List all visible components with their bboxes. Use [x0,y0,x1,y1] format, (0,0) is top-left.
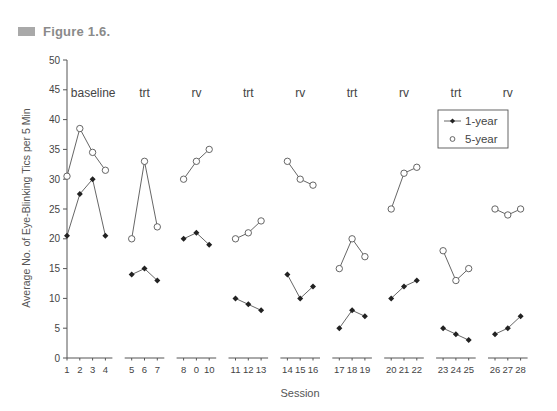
x-tick-label: 17 [334,364,345,375]
y-tick-label: 5 [54,323,60,334]
y-tick-label: 20 [49,233,61,244]
data-point-5-year [517,206,523,212]
data-point-5-year [77,125,83,131]
data-point-5-year [297,176,303,182]
data-point-1-year [245,301,251,307]
data-point-5-year [440,248,446,254]
x-tick-label: 28 [515,364,526,375]
data-point-5-year [414,164,420,170]
series-line-segment [443,251,469,281]
series-line-segment [67,129,105,177]
session-line-chart: 05101520253035404550 1234567801011121314… [0,0,557,411]
x-axis-title: Session [280,387,319,399]
x-tick-label: 1 [64,364,69,375]
data-point-5-year [401,170,407,176]
y-tick-label: 35 [49,144,61,155]
y-axis-title: Average No. of Eye-Blinking Tics per 5 M… [20,108,32,308]
x-tick-label: 26 [490,364,501,375]
series-1-year [64,176,524,343]
data-point-5-year [180,176,186,182]
phase-label-baseline: baseline [71,86,116,100]
data-point-5-year [388,206,394,212]
data-point-5-year [492,206,498,212]
x-tick-label: 3 [90,364,95,375]
x-tick-label: 2 [77,364,82,375]
y-tick-label: 40 [49,114,61,125]
data-point-1-year [233,295,239,301]
x-tick-label: 14 [282,364,293,375]
phase-label-rv: rv [295,86,305,100]
data-point-5-year [154,224,160,230]
data-point-1-year [336,325,342,331]
y-tick-label: 45 [49,84,61,95]
data-point-5-year [310,182,316,188]
data-point-5-year [466,265,472,271]
x-tick-label: 18 [347,364,358,375]
data-point-5-year [129,236,135,242]
data-point-5-year [232,236,238,242]
series-line-segment [67,179,105,236]
data-point-5-year [258,218,264,224]
y-tick-label: 25 [49,204,61,215]
x-axis: 1234567801011121314151617181920212223242… [64,358,527,375]
data-point-5-year [284,158,290,164]
y-axis: 05101520253035404550 [49,55,67,364]
phase-label-rv: rv [191,86,201,100]
data-point-1-year [129,272,135,278]
data-point-1-year [349,307,355,313]
data-point-1-year [64,233,70,239]
data-point-5-year [102,167,108,173]
x-tick-label: 7 [155,364,160,375]
x-tick-label: 24 [451,364,462,375]
x-tick-label: 21 [399,364,410,375]
x-tick-label: 4 [103,364,108,375]
data-point-5-year [64,173,70,179]
data-point-1-year [453,331,459,337]
x-tick-label: 12 [243,364,254,375]
phase-label-trt: trt [347,86,358,100]
y-tick-label: 50 [49,55,61,66]
series-layer [64,125,524,343]
legend-label-1-year: 1-year [465,115,498,127]
legend-marker-5-year [450,137,455,142]
data-point-5-year [245,230,251,236]
phase-label-trt: trt [139,86,150,100]
x-tick-label: 10 [204,364,215,375]
phase-label-rv: rv [399,86,409,100]
data-point-1-year [181,236,187,242]
data-point-5-year [349,236,355,242]
series-line-segment [287,275,313,299]
series-line-segment [132,161,158,238]
data-point-1-year [362,313,368,319]
x-tick-label: 20 [386,364,397,375]
phase-label-trt: trt [451,86,462,100]
x-tick-label: 5 [129,364,134,375]
data-point-5-year [453,277,459,283]
x-tick-label: 27 [503,364,514,375]
data-point-5-year [193,158,199,164]
x-tick-label: 11 [231,364,241,375]
data-point-1-year [102,233,108,239]
data-point-1-year [466,337,472,343]
data-point-5-year [141,158,147,164]
phase-label-trt: trt [243,86,254,100]
x-tick-label: 13 [256,364,267,375]
phase-label-rv: rv [503,86,513,100]
x-tick-label: 19 [360,364,371,375]
data-point-5-year [505,212,511,218]
x-tick-label: 0 [194,364,199,375]
data-point-1-year [492,331,498,337]
x-tick-label: 25 [463,364,474,375]
series-5-year [64,125,524,283]
data-point-1-year [414,278,420,284]
data-point-1-year [258,307,264,313]
data-point-1-year [284,272,290,278]
data-point-5-year [206,146,212,152]
data-point-5-year [89,149,95,155]
x-tick-label: 6 [142,364,147,375]
x-tick-label: 23 [438,364,449,375]
series-line-segment [339,239,365,269]
data-point-5-year [336,265,342,271]
x-tick-label: 22 [412,364,423,375]
y-tick-label: 0 [54,353,60,364]
